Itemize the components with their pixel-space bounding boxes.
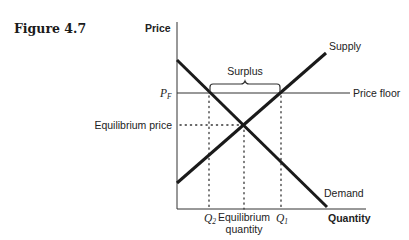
y-axis-label: Price [145,22,171,34]
supply-label: Supply [329,40,362,52]
equilibrium-quantity-label-2: quantity [226,223,264,235]
pf-label: PF [159,87,172,101]
x-axis-label: Quantity [328,212,371,224]
equilibrium-price-label: Equilibrium price [94,119,172,131]
demand-label: Demand [324,187,364,199]
q2-label: Q2 [204,212,216,226]
q1-label: Q1 [276,212,288,226]
demand-curve [177,60,327,207]
price-floor-label: Price floor [353,87,401,99]
price-floor-diagram: Figure 4.7 Price Quantity Price floor Su… [0,0,409,240]
equilibrium-quantity-label-1: Equilibrium [218,211,270,223]
figure-title: Figure 4.7 [14,21,86,36]
surplus-bracket [210,81,280,92]
surplus-label: Surplus [227,65,263,77]
